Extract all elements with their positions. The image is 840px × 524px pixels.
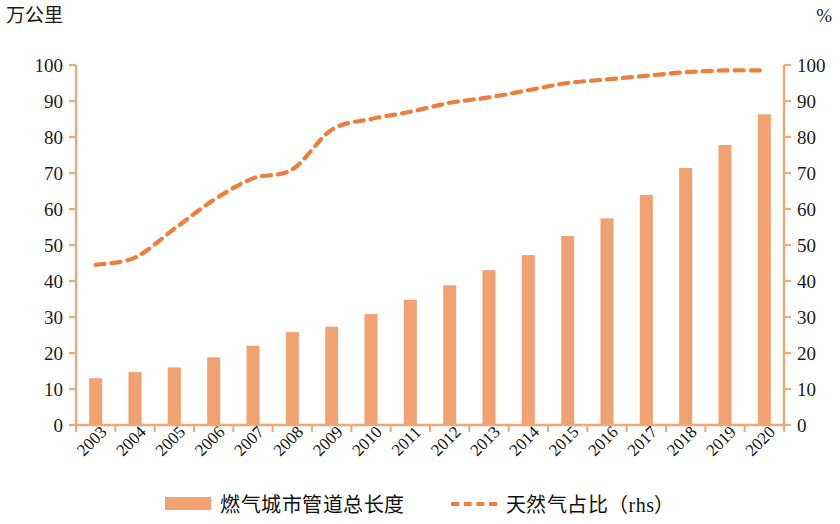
- chart-figure: 万公里 % 0102030405060708090100 01020304050…: [0, 0, 840, 524]
- right-axis-tick-label: 40: [797, 271, 816, 292]
- legend-bar-swatch-icon: [165, 497, 211, 510]
- bar: [168, 367, 181, 425]
- x-axis-tick-label: 2007: [230, 422, 268, 460]
- x-axis-tick-label: 2015: [545, 422, 582, 459]
- x-axis-tick-label: 2014: [506, 422, 544, 460]
- right-axis-tick-label: 100: [797, 55, 826, 76]
- bar: [640, 195, 653, 425]
- right-axis-tick-label: 0: [797, 415, 807, 436]
- x-axis-tick-label: 2004: [112, 422, 150, 460]
- legend-label-bar: 燃气城市管道总长度: [220, 489, 405, 518]
- right-axis-tick-label: 20: [797, 343, 816, 364]
- bar: [443, 285, 456, 425]
- legend-entry-bar: 燃气城市管道总长度: [165, 489, 405, 518]
- right-axis-tick-label: 10: [797, 379, 816, 400]
- bar: [365, 314, 378, 425]
- x-axis: 2003200420052006200720082009201020112012…: [73, 422, 784, 460]
- bar: [89, 378, 102, 425]
- left-axis-tick-label: 60: [44, 199, 63, 220]
- chart-plot-area: 0102030405060708090100 01020304050607080…: [0, 0, 840, 524]
- left-axis-tick-label: 100: [35, 55, 64, 76]
- right-axis-tick-label: 30: [797, 307, 816, 328]
- bar: [601, 218, 614, 425]
- left-axis-tick-label: 70: [44, 163, 63, 184]
- right-axis-tick-label: 60: [797, 199, 816, 220]
- bar: [404, 300, 417, 425]
- left-axis-tick-label: 30: [44, 307, 63, 328]
- bar-series: [89, 114, 771, 425]
- bar: [129, 372, 142, 425]
- bar: [207, 357, 220, 425]
- x-axis-tick-label: 2020: [742, 422, 779, 459]
- right-axis-tick-label: 50: [797, 235, 816, 256]
- bar: [679, 168, 692, 425]
- legend-dashed-line-swatch-icon: [451, 502, 497, 506]
- dashed-trend-line: [96, 70, 765, 265]
- x-axis-tick-label: 2011: [388, 423, 425, 460]
- x-axis-tick-label: 2017: [624, 422, 662, 460]
- x-axis-tick-label: 2005: [152, 422, 189, 459]
- bar: [522, 255, 535, 425]
- legend-entry-line: 天然气占比（rhs）: [451, 489, 675, 518]
- bar: [325, 327, 338, 425]
- right-axis-tick-label: 80: [797, 127, 816, 148]
- x-axis-tick-label: 2010: [348, 422, 385, 459]
- bar: [561, 236, 574, 425]
- chart-legend: 燃气城市管道总长度 天然气占比（rhs）: [0, 489, 840, 518]
- legend-label-line: 天然气占比（rhs）: [506, 489, 675, 518]
- x-axis-tick-label: 2019: [702, 422, 739, 459]
- left-axis-tick-label: 40: [44, 271, 63, 292]
- x-axis-tick-label: 2016: [584, 422, 621, 459]
- left-axis-tick-label: 20: [44, 343, 63, 364]
- right-axis: 0102030405060708090100: [784, 55, 826, 436]
- bar: [247, 346, 260, 425]
- left-axis-tick-label: 80: [44, 127, 63, 148]
- x-axis-tick-label: 2013: [466, 422, 503, 459]
- line-series: [96, 70, 765, 265]
- x-axis-tick-label: 2003: [73, 422, 110, 459]
- left-axis-tick-label: 90: [44, 91, 63, 112]
- bar: [719, 145, 732, 425]
- x-axis-tick-label: 2018: [663, 422, 700, 459]
- x-axis-tick-label: 2012: [427, 422, 464, 459]
- right-axis-tick-label: 70: [797, 163, 816, 184]
- left-axis: 0102030405060708090100: [35, 55, 77, 436]
- bar: [286, 332, 299, 425]
- x-axis-tick-label: 2009: [309, 422, 346, 459]
- right-axis-tick-label: 90: [797, 91, 816, 112]
- left-axis-tick-label: 50: [44, 235, 63, 256]
- left-axis-tick-label: 0: [54, 415, 64, 436]
- x-axis-tick-label: 2006: [191, 422, 228, 459]
- bar: [758, 114, 771, 425]
- bar: [483, 270, 496, 425]
- left-axis-tick-label: 10: [44, 379, 63, 400]
- x-axis-tick-label: 2008: [270, 422, 307, 459]
